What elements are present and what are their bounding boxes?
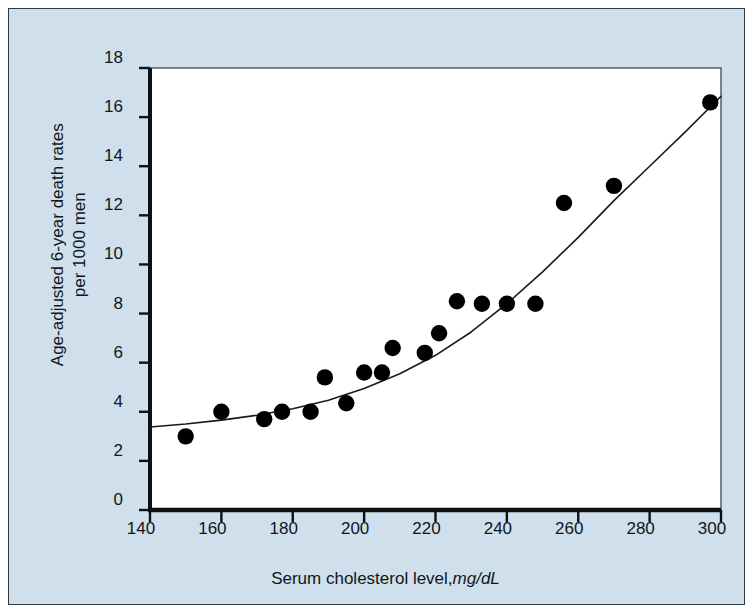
figure-panel: Age-adjusted 6-year death rates per 1000… <box>8 8 745 605</box>
y-tick-label: 14 <box>83 146 123 166</box>
x-tick-label: 180 <box>254 519 314 539</box>
y-tick-label: 16 <box>83 97 123 117</box>
x-axis-title: Serum cholesterol level,mg/dL <box>9 569 753 589</box>
x-tick-label: 200 <box>325 519 385 539</box>
x-tick-label: 220 <box>397 519 457 539</box>
y-tick-label: 12 <box>83 195 123 215</box>
y-tick-label: 6 <box>83 343 123 363</box>
x-tick-label: 140 <box>111 519 171 539</box>
x-tick-label: 300 <box>682 519 742 539</box>
x-tick-label: 280 <box>611 519 671 539</box>
x-axis-title-unit: mg/dL <box>453 569 500 588</box>
x-tick-label: 260 <box>539 519 599 539</box>
y-tick-label: 2 <box>83 441 123 461</box>
y-tick-label: 10 <box>83 244 123 264</box>
y-tick-label: 8 <box>83 294 123 314</box>
plot-area <box>150 68 721 510</box>
figure-container: Age-adjusted 6-year death rates per 1000… <box>0 0 753 613</box>
y-tick-label: 0 <box>83 490 123 510</box>
y-axis-title-line1: Age-adjusted 6-year death rates <box>47 35 69 455</box>
x-tick-label: 160 <box>182 519 242 539</box>
y-tick-label: 4 <box>83 392 123 412</box>
x-tick-label: 240 <box>468 519 528 539</box>
y-tick-label: 18 <box>83 48 123 68</box>
x-axis-title-text: Serum cholesterol level, <box>271 569 452 588</box>
